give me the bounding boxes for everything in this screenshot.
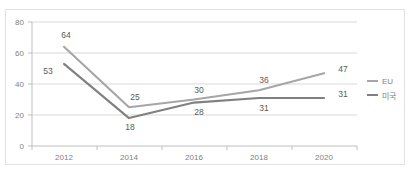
x-tick-label-2014: 2014 (109, 153, 149, 162)
data-label-eu-2018: 36 (254, 75, 274, 85)
x-tick-label-2016: 2016 (174, 153, 214, 162)
data-label-us-2012: 53 (38, 66, 58, 76)
legend-item-eu[interactable]: EU (367, 74, 411, 88)
data-label-us-2020: 31 (333, 89, 353, 99)
data-label-eu-2020: 47 (333, 64, 353, 74)
data-label-us-2014: 18 (120, 122, 140, 132)
y-tick-label-0: 0 (2, 142, 24, 151)
chart-screenshot: 80 60 40 20 0 2012 2014 2016 2018 2020 6… (0, 0, 411, 177)
data-label-us-2016: 28 (189, 107, 209, 117)
data-label-eu-2012: 64 (56, 30, 76, 40)
legend-item-us[interactable]: 미국 (367, 88, 411, 102)
legend-swatch-us-icon (367, 94, 378, 97)
data-label-us-2018: 31 (254, 103, 274, 113)
y-tick-label-60: 60 (2, 49, 24, 58)
y-tick-label-40: 40 (2, 80, 24, 89)
chart-legend: EU 미국 (367, 74, 411, 102)
x-tick-label-2020: 2020 (304, 153, 344, 162)
data-label-eu-2016: 30 (189, 85, 209, 95)
y-tick-label-80: 80 (2, 18, 24, 27)
legend-label-us: 미국 (382, 90, 396, 101)
gridlines (32, 22, 357, 146)
y-tick-label-20: 20 (2, 111, 24, 120)
x-tick-label-2018: 2018 (239, 153, 279, 162)
legend-swatch-eu-icon (367, 80, 378, 83)
x-tick-label-2012: 2012 (44, 153, 84, 162)
legend-label-eu: EU (382, 77, 393, 86)
y-axis-ticks (28, 22, 32, 146)
x-axis-ticks (32, 146, 357, 150)
data-label-eu-2014: 25 (125, 92, 145, 102)
